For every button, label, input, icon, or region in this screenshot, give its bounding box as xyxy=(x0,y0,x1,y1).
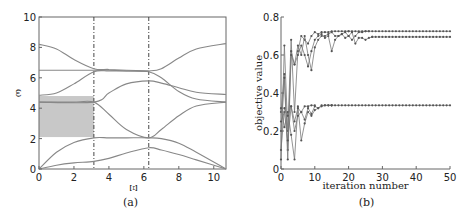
y-tick-label: 0.2 xyxy=(263,126,279,137)
data-point xyxy=(310,35,312,37)
data-point xyxy=(300,139,302,141)
figure: 02468100246810Ξω(a) 0102030405000.20.40.… xyxy=(0,0,470,221)
data-point xyxy=(283,44,285,46)
data-point xyxy=(317,107,319,109)
data-point xyxy=(300,111,302,113)
data-point xyxy=(300,54,302,56)
x-tick-label: 4 xyxy=(106,172,112,183)
data-point xyxy=(314,31,316,33)
data-point xyxy=(412,36,414,38)
data-point xyxy=(300,44,302,46)
data-point xyxy=(405,30,407,32)
data-point xyxy=(381,104,383,106)
data-point xyxy=(290,39,292,41)
data-point xyxy=(290,134,292,136)
data-point xyxy=(432,36,434,38)
data-point xyxy=(334,104,336,106)
data-point xyxy=(371,36,373,38)
data-point xyxy=(395,104,397,106)
data-point xyxy=(442,36,444,38)
chart-a-dispersion: 02468100246810Ξω(a) xyxy=(14,12,226,209)
data-point xyxy=(327,33,329,35)
data-point xyxy=(408,36,410,38)
data-point xyxy=(314,109,316,111)
x-tick-label: 50 xyxy=(444,172,457,183)
data-point xyxy=(398,104,400,106)
data-point xyxy=(432,30,434,32)
y-tick-label: 2 xyxy=(30,134,36,145)
data-point xyxy=(344,104,346,106)
data-point xyxy=(361,37,363,39)
data-point xyxy=(293,130,295,132)
data-point xyxy=(304,122,306,124)
data-point xyxy=(439,36,441,38)
data-point xyxy=(293,158,295,160)
data-point xyxy=(344,31,346,33)
data-point xyxy=(388,30,390,32)
data-point xyxy=(341,30,343,32)
data-point xyxy=(405,104,407,106)
data-point xyxy=(310,113,312,115)
data-point xyxy=(324,104,326,106)
data-point xyxy=(283,77,285,79)
data-point xyxy=(412,104,414,106)
data-point xyxy=(442,104,444,106)
data-point xyxy=(446,36,448,38)
convergence-curve-run2 xyxy=(281,31,369,150)
data-point xyxy=(297,115,299,117)
x-tick-label: 10 xyxy=(207,172,220,183)
data-point xyxy=(364,30,366,32)
data-point xyxy=(395,30,397,32)
data-point xyxy=(317,39,319,41)
data-point xyxy=(368,30,370,32)
data-point xyxy=(418,30,420,32)
data-point xyxy=(337,35,339,37)
data-point xyxy=(293,120,295,122)
dispersion-curve-band2 xyxy=(39,138,226,169)
data-point xyxy=(324,31,326,33)
data-point xyxy=(307,54,309,56)
data-point xyxy=(287,139,289,141)
data-point xyxy=(307,105,309,107)
data-point xyxy=(422,104,424,106)
data-point xyxy=(378,36,380,38)
data-point xyxy=(334,35,336,37)
x-axis-label: iteration number xyxy=(322,180,408,191)
data-point xyxy=(310,69,312,71)
x-tick-label: 0 xyxy=(36,172,42,183)
data-point xyxy=(283,126,285,128)
data-point xyxy=(395,36,397,38)
data-point xyxy=(449,104,451,106)
convergence-curve-run3 xyxy=(281,32,372,159)
data-point xyxy=(429,30,431,32)
caption-a: (a) xyxy=(123,196,138,209)
data-point xyxy=(348,35,350,37)
data-point xyxy=(334,39,336,41)
data-point xyxy=(327,104,329,106)
data-point xyxy=(331,31,333,33)
data-point xyxy=(398,30,400,32)
data-point xyxy=(280,149,282,151)
data-point xyxy=(320,33,322,35)
data-point xyxy=(300,35,302,37)
data-point xyxy=(354,35,356,37)
y-tick-label: 6 xyxy=(30,73,36,84)
data-point xyxy=(391,36,393,38)
data-point xyxy=(337,30,339,32)
data-point xyxy=(331,104,333,106)
data-point xyxy=(307,107,309,109)
data-point xyxy=(304,54,306,56)
data-point xyxy=(348,30,350,32)
data-point xyxy=(378,30,380,32)
data-point xyxy=(439,104,441,106)
data-point xyxy=(364,104,366,106)
data-point xyxy=(314,39,316,41)
data-point xyxy=(378,104,380,106)
data-point xyxy=(351,30,353,32)
data-point xyxy=(371,30,373,32)
data-point xyxy=(310,104,312,106)
data-point xyxy=(385,104,387,106)
data-point xyxy=(439,30,441,32)
data-point xyxy=(432,104,434,106)
y-tick-label: 0.8 xyxy=(263,12,279,23)
